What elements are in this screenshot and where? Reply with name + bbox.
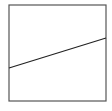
diagram-canvas	[0, 0, 112, 111]
sloped-line	[9, 38, 106, 68]
